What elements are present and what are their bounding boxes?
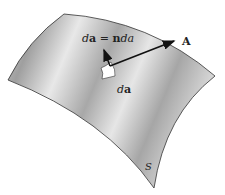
surface-diagram: da = nda A da S	[0, 0, 225, 195]
area-element-label: da	[117, 83, 131, 96]
surface-s-label: S	[145, 161, 152, 172]
area-equation-label: da = nda	[82, 32, 134, 45]
vector-a-label: A	[181, 35, 191, 48]
